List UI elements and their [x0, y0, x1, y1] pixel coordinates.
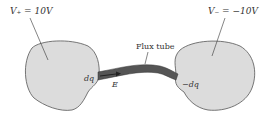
v-plus-label: V₊ = 10V — [10, 6, 52, 16]
neg-dq-label: −dq — [182, 80, 199, 89]
dq-label: dq — [84, 74, 94, 83]
e-field-label: E — [112, 80, 118, 89]
flux-tube — [98, 65, 178, 80]
v-minus-label: V₋ = −10V — [208, 6, 258, 16]
flux-tube-label: Flux tube — [136, 42, 175, 51]
diagram-graphics — [0, 0, 268, 123]
negative-conductor — [175, 41, 255, 110]
flux-tube-diagram: V₊ = 10V V₋ = −10V Flux tube dq −dq E — [0, 0, 268, 123]
